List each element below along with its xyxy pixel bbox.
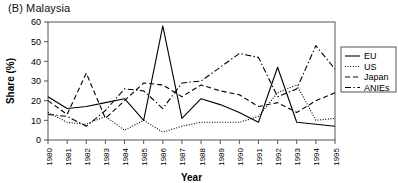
- series-line-japan: [48, 73, 335, 118]
- x-tick-label: 1995: [332, 147, 341, 165]
- y-tick-label: 0: [36, 135, 41, 145]
- legend-label-us: US: [364, 62, 377, 72]
- x-tick-label: 1991: [255, 147, 264, 165]
- x-tick-label: 1990: [236, 147, 245, 165]
- legend-label-anies: ANIEs: [364, 83, 390, 93]
- x-tick-label: 1982: [83, 147, 92, 165]
- y-tick-label: 20: [31, 96, 41, 106]
- line-chart: 0102030405060Share (%) 19801981198219831…: [0, 0, 398, 183]
- x-tick-label: 1984: [121, 147, 130, 165]
- y-tick-label: 60: [31, 17, 41, 27]
- series-layer: [48, 26, 335, 132]
- x-tick-label: 1985: [140, 147, 149, 165]
- series-line-eu: [48, 26, 335, 126]
- plot-frame: [48, 22, 335, 140]
- y-tick-label: 50: [31, 37, 41, 47]
- x-tick-label: 1981: [64, 147, 73, 165]
- x-axis: 1980198119821983198419851986198719881989…: [45, 140, 341, 183]
- x-tick-label: 1986: [159, 147, 168, 165]
- x-axis-title: Year: [181, 172, 202, 183]
- x-tick-label: 1992: [274, 147, 283, 165]
- chart-panel: (B) Malaysia 0102030405060Share (%) 1980…: [0, 0, 398, 183]
- x-tick-label: 1993: [293, 147, 302, 165]
- y-axis: 0102030405060Share (%): [5, 17, 48, 145]
- y-tick-label: 30: [31, 76, 41, 86]
- x-tick-label: 1989: [217, 147, 226, 165]
- x-tick-label: 1980: [45, 147, 54, 165]
- legend-label-japan: Japan: [364, 72, 389, 82]
- x-tick-label: 1988: [198, 147, 207, 165]
- legend: EUUSJapanANIEs: [341, 47, 396, 93]
- legend-label-eu: EU: [364, 51, 377, 61]
- x-tick-label: 1987: [178, 147, 187, 165]
- y-tick-label: 10: [31, 116, 41, 126]
- y-axis-title: Share (%): [5, 58, 16, 104]
- series-line-anies: [48, 46, 335, 127]
- x-tick-label: 1994: [312, 147, 321, 165]
- x-tick-label: 1983: [102, 147, 111, 165]
- y-tick-label: 40: [31, 57, 41, 67]
